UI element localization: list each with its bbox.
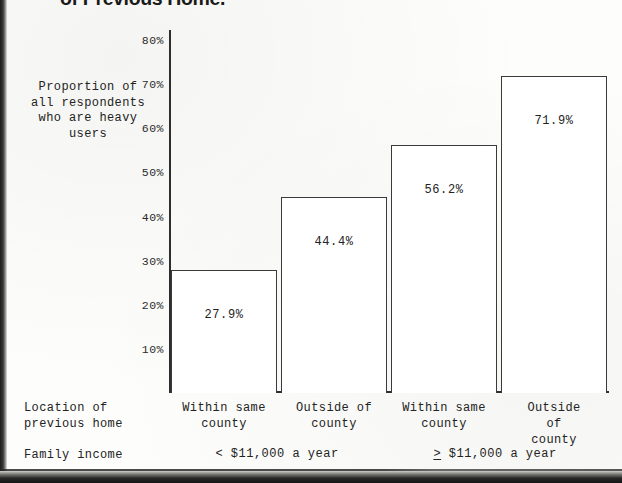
x-axis-category-label: Outside of county bbox=[520, 400, 588, 448]
x-axis-category-label: Within same county bbox=[182, 400, 266, 432]
scanned-chart-page: of Previous Home. Proportion of all resp… bbox=[0, 0, 622, 483]
y-axis-tick-label: 20% bbox=[116, 298, 164, 311]
y-axis-tick-label: 80% bbox=[116, 34, 164, 47]
y-axis-tick-label: 10% bbox=[116, 342, 164, 355]
less-than-sign: < bbox=[215, 447, 223, 461]
bar bbox=[171, 270, 278, 393]
bar-value-label: 56.2% bbox=[424, 183, 463, 197]
page-title: of Previous Home. bbox=[60, 0, 460, 10]
income-group-label-low: < $11,000 a year bbox=[215, 447, 338, 461]
x-axis-category-label: Within same county bbox=[402, 400, 486, 432]
greater-than-or-equal-sign: > bbox=[433, 447, 441, 461]
income-high-text: $11,000 a year bbox=[441, 447, 557, 461]
bar bbox=[281, 197, 388, 393]
y-axis-tick-label: 30% bbox=[116, 254, 164, 267]
y-axis-tick-label: 60% bbox=[116, 122, 164, 135]
y-axis-tick-label: 40% bbox=[116, 210, 164, 223]
x-axis-category-label: Outside of county bbox=[296, 400, 372, 432]
scan-left-edge-artifact bbox=[0, 0, 7, 483]
y-axis-tick-label: 70% bbox=[116, 78, 164, 91]
plot-area: 80%70%60%50%40%30%20%10% 27.9%44.4%56.2%… bbox=[169, 30, 609, 393]
row-label-family-income: Family income bbox=[24, 447, 123, 463]
scan-bottom-edge-artifact bbox=[0, 471, 622, 483]
bar-value-label: 27.9% bbox=[204, 308, 243, 322]
income-group-label-high: > $11,000 a year bbox=[433, 447, 556, 461]
bar-value-label: 44.4% bbox=[314, 235, 353, 249]
bar-value-label: 71.9% bbox=[534, 114, 573, 128]
income-low-text: $11,000 a year bbox=[223, 447, 339, 461]
y-axis-tick-label: 50% bbox=[116, 166, 164, 179]
row-label-location: Location of previous home bbox=[24, 400, 123, 432]
